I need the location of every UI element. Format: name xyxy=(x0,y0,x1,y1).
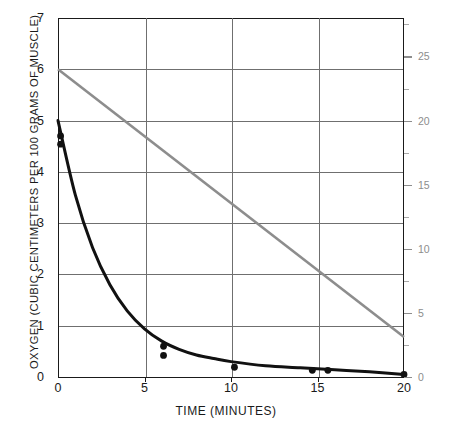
y-tick-label-right: 20 xyxy=(418,115,444,127)
y-tick-label-right: 0 xyxy=(418,371,444,383)
y-tick-mark-right-minor xyxy=(404,345,409,346)
x-axis-label: TIME (MINUTES) xyxy=(0,404,452,418)
muscle-oxygen-curve xyxy=(58,121,404,375)
y-tick-label-left: 4 xyxy=(14,165,44,179)
y-tick-label-left: 5 xyxy=(14,114,44,128)
y-tick-label-right: 5 xyxy=(418,307,444,319)
series-layer xyxy=(0,0,452,428)
data-point xyxy=(57,141,64,148)
data-point xyxy=(231,364,238,371)
y-tick-mark-right xyxy=(404,121,412,122)
x-tick-label: 5 xyxy=(125,381,165,395)
y-tick-mark-right xyxy=(404,313,412,314)
data-point xyxy=(309,367,316,374)
y-tick-mark-right-minor xyxy=(404,217,409,218)
y-tick-label-right: 25 xyxy=(418,50,444,62)
y-tick-label-left: 3 xyxy=(14,216,44,230)
y-tick-mark-right xyxy=(404,185,412,186)
y-tick-mark-right-minor xyxy=(404,24,409,25)
x-tick-mark xyxy=(231,377,232,382)
y-tick-mark-right-minor xyxy=(404,89,409,90)
data-point xyxy=(160,343,167,350)
y-tick-label-left: 2 xyxy=(14,267,44,281)
x-tick-label: 15 xyxy=(298,381,338,395)
y-tick-label-right: 10 xyxy=(418,243,444,255)
y-tick-mark-right-minor xyxy=(404,281,409,282)
y-tick-label-right: 15 xyxy=(418,179,444,191)
y-tick-label-left: 7 xyxy=(14,11,44,25)
y-tick-mark-right-minor xyxy=(404,153,409,154)
data-point xyxy=(160,352,167,359)
data-point xyxy=(57,133,64,140)
x-tick-label: 20 xyxy=(384,381,424,395)
y-tick-label-left: 6 xyxy=(14,62,44,76)
x-tick-label: 10 xyxy=(211,381,251,395)
x-tick-mark xyxy=(145,377,146,382)
x-tick-label: 0 xyxy=(38,381,78,395)
y-tick-mark-right xyxy=(404,377,412,378)
data-point xyxy=(324,367,331,374)
blood-oxygen-line xyxy=(58,69,404,337)
y-tick-mark-right xyxy=(404,249,412,250)
y-tick-label-left: 1 xyxy=(14,319,44,333)
x-tick-mark xyxy=(318,377,319,382)
oxygen-decay-chart: OXYGEN (CUBIC CENTIMETERS PER 100 GRAMS … xyxy=(0,0,452,428)
y-tick-mark-right xyxy=(404,56,412,57)
